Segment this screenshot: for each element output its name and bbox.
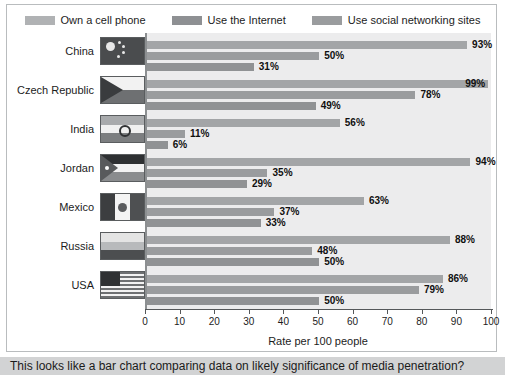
bar-label-india-use-social-networking: 6% — [173, 139, 187, 150]
bar-row-china-own-cell-phone: 93% — [147, 41, 491, 49]
flag-india-icon — [100, 115, 145, 143]
legend-item-use-internet: Use the Internet — [172, 15, 286, 26]
bar-label-mexico-use-internet: 37% — [279, 206, 299, 217]
x-tick-mark-0 — [145, 309, 146, 314]
bar-russia-use-internet — [147, 247, 312, 255]
bar-group-mexico: 63% 37% 33% — [147, 197, 491, 230]
legend-label-use-internet: Use the Internet — [208, 15, 286, 26]
category-china: China — [7, 37, 145, 65]
plot-area: 93% 50% 31% 99% — [145, 33, 491, 309]
legend-label-use-social-networking: Use social networking sites — [348, 15, 481, 26]
bar-row-china-use-internet: 50% — [147, 52, 491, 60]
bar-row-usa-use-internet: 79% — [147, 286, 491, 294]
x-tick-mark-50 — [318, 309, 319, 314]
x-tick-label-20: 20 — [209, 316, 220, 327]
bar-label-usa-own-cell-phone: 86% — [448, 273, 468, 284]
x-tick-label-0: 0 — [142, 316, 148, 327]
bar-row-india-own-cell-phone: 56% — [147, 119, 491, 127]
bar-row-mexico-own-cell-phone: 63% — [147, 197, 491, 205]
caption-strip: This looks like a bar chart comparing da… — [0, 357, 505, 375]
bar-label-usa-use-internet: 79% — [424, 284, 444, 295]
x-tick-mark-40 — [283, 309, 284, 314]
category-india: India — [7, 115, 145, 143]
bar-czech-republic-use-internet — [147, 91, 415, 99]
category-label-usa: USA — [71, 279, 94, 291]
x-tick-label-50: 50 — [312, 316, 323, 327]
bar-label-czech-republic-use-internet: 78% — [420, 89, 440, 100]
bar-india-use-social-networking — [147, 141, 168, 149]
x-tick-mark-100 — [491, 309, 492, 314]
legend-item-own-cell-phone: Own a cell phone — [25, 15, 146, 26]
bar-usa-own-cell-phone — [147, 275, 443, 283]
flag-jordan-icon — [100, 154, 145, 182]
chart-figure: Own a cell phone Use the Internet Use so… — [0, 0, 505, 375]
x-tick-mark-70 — [387, 309, 388, 314]
bar-row-czech-republic-use-social-networking: 49% — [147, 102, 491, 110]
bar-label-russia-use-internet: 48% — [317, 245, 337, 256]
category-czech-republic: Czech Republic — [7, 76, 145, 104]
bar-row-jordan-own-cell-phone: 94% — [147, 158, 491, 166]
x-tick-label-40: 40 — [278, 316, 289, 327]
x-tick-label-80: 80 — [416, 316, 427, 327]
bar-russia-own-cell-phone — [147, 236, 450, 244]
bar-mexico-use-social-networking — [147, 219, 261, 227]
bar-india-own-cell-phone — [147, 119, 340, 127]
bar-group-jordan: 94% 35% 29% — [147, 158, 491, 191]
chart-card: Own a cell phone Use the Internet Use so… — [6, 4, 497, 352]
bar-row-russia-use-social-networking: 50% — [147, 258, 491, 266]
bar-row-india-use-social-networking: 6% — [147, 141, 491, 149]
category-label-india: India — [70, 123, 94, 135]
bar-china-use-social-networking — [147, 63, 254, 71]
bars-layer: 93% 50% 31% 99% — [147, 33, 491, 309]
legend-swatch-own-cell-phone — [25, 16, 55, 25]
bar-row-czech-republic-use-internet: 78% — [147, 91, 491, 99]
bar-label-jordan-own-cell-phone: 94% — [476, 156, 496, 167]
bar-row-czech-republic-own-cell-phone: 99% — [147, 80, 491, 88]
legend-label-own-cell-phone: Own a cell phone — [61, 15, 146, 26]
flag-czech-republic-icon — [100, 76, 145, 104]
x-tick-mark-80 — [422, 309, 423, 314]
bar-row-india-use-internet: 11% — [147, 130, 491, 138]
bar-china-own-cell-phone — [147, 41, 467, 49]
x-tick-mark-10 — [180, 309, 181, 314]
x-tick-label-70: 70 — [382, 316, 393, 327]
chart-legend: Own a cell phone Use the Internet Use so… — [7, 10, 498, 30]
bar-group-india: 56% 11% 6% — [147, 119, 491, 152]
bar-russia-use-social-networking — [147, 258, 319, 266]
x-tick-mark-20 — [214, 309, 215, 314]
bar-label-jordan-use-social-networking: 29% — [252, 178, 272, 189]
bar-label-china-own-cell-phone: 93% — [472, 39, 492, 50]
category-label-china: China — [65, 45, 94, 57]
legend-swatch-use-social-networking — [312, 16, 342, 25]
category-mexico: Mexico — [7, 193, 145, 221]
legend-item-use-social-networking: Use social networking sites — [312, 15, 481, 26]
bar-group-russia: 88% 48% 50% — [147, 236, 491, 269]
bar-label-mexico-own-cell-phone: 63% — [369, 195, 389, 206]
x-tick-mark-90 — [456, 309, 457, 314]
category-usa: USA — [7, 271, 145, 299]
flag-mexico-icon — [100, 193, 145, 221]
bar-label-russia-own-cell-phone: 88% — [455, 234, 475, 245]
bar-label-usa-use-social-networking: 50% — [324, 295, 344, 306]
bar-group-czech-republic: 99% 78% 49% — [147, 80, 491, 113]
bar-usa-use-internet — [147, 286, 419, 294]
caption-text: This looks like a bar chart comparing da… — [10, 359, 464, 373]
bar-row-russia-own-cell-phone: 88% — [147, 236, 491, 244]
bar-mexico-own-cell-phone — [147, 197, 364, 205]
x-tick-mark-30 — [249, 309, 250, 314]
bar-row-usa-own-cell-phone: 86% — [147, 275, 491, 283]
bar-row-mexico-use-internet: 37% — [147, 208, 491, 216]
bar-row-china-use-social-networking: 31% — [147, 63, 491, 71]
x-axis-title: Rate per 100 people — [145, 335, 491, 347]
x-tick-label-90: 90 — [451, 316, 462, 327]
x-tick-label-60: 60 — [347, 316, 358, 327]
bar-jordan-use-internet — [147, 169, 267, 177]
flag-russia-icon — [100, 232, 145, 260]
category-label-jordan: Jordan — [60, 162, 94, 174]
category-label-russia: Russia — [60, 240, 94, 252]
flag-usa-icon — [100, 271, 145, 299]
category-label-czech-republic: Czech Republic — [17, 84, 94, 96]
bar-row-russia-use-internet: 48% — [147, 247, 491, 255]
bar-group-china: 93% 50% 31% — [147, 41, 491, 74]
bar-czech-republic-use-social-networking — [147, 102, 316, 110]
